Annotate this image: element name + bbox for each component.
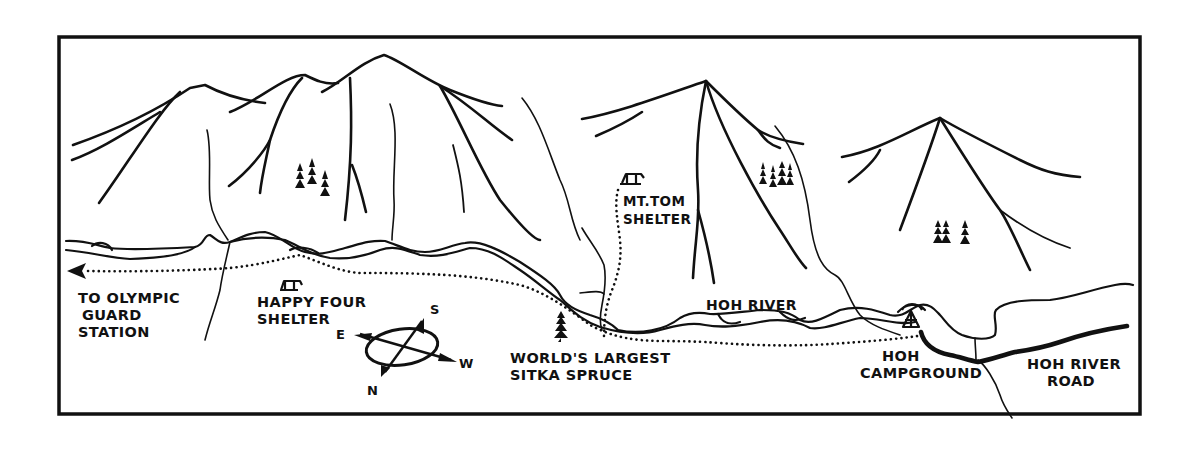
label-line: ROAD <box>1027 373 1121 390</box>
compass-west-label: W <box>459 356 473 371</box>
label-line: TO OLYMPIC <box>78 290 180 307</box>
compass-south-label: S <box>430 302 439 317</box>
label-line: HOH RIVER <box>1027 356 1121 373</box>
label-line: SITKA SPRUCE <box>510 367 670 384</box>
compass-rose-icon <box>354 318 457 377</box>
label-line: MT.TOM <box>623 192 691 210</box>
sitka-spruce-tree-icon <box>554 311 568 342</box>
label-to-olympic-guard-station: TO OLYMPIC GUARD STATION <box>78 290 180 341</box>
label-hoh-campground: HOH CAMPGROUND <box>860 348 982 382</box>
compass-north-label: N <box>367 383 378 398</box>
label-worlds-largest-sitka-spruce: WORLD'S LARGEST SITKA SPRUCE <box>510 350 670 384</box>
label-line: STATION <box>78 324 180 341</box>
tent-icon <box>902 304 922 327</box>
hoh-river <box>66 228 1133 418</box>
label-line: CAMPGROUND <box>860 365 982 382</box>
arrow-left-icon <box>67 263 86 279</box>
label-mt-tom-shelter: MT.TOM SHELTER <box>623 192 691 228</box>
label-hoh-river-road: HOH RIVER ROAD <box>1027 356 1121 390</box>
conifer-tree-icon <box>295 158 330 196</box>
label-line: HOH RIVER <box>706 297 797 314</box>
mountain-right <box>842 118 1080 270</box>
conifer-tree-icon <box>933 220 970 244</box>
label-happy-four-shelter: HAPPY FOUR SHELTER <box>257 294 366 328</box>
shelter-icon <box>620 174 644 184</box>
shelter-icon <box>280 281 302 290</box>
label-line: HOH <box>860 348 982 365</box>
label-line: HAPPY FOUR <box>257 294 366 311</box>
compass-east-label: E <box>336 327 345 342</box>
label-line: SHELTER <box>623 210 691 228</box>
mountain-range-left <box>72 55 580 240</box>
label-hoh-river: HOH RIVER <box>706 297 797 314</box>
label-line: SHELTER <box>257 311 366 328</box>
conifer-tree-icon <box>759 161 794 187</box>
label-line: WORLD'S LARGEST <box>510 350 670 367</box>
label-line: GUARD <box>78 307 180 324</box>
